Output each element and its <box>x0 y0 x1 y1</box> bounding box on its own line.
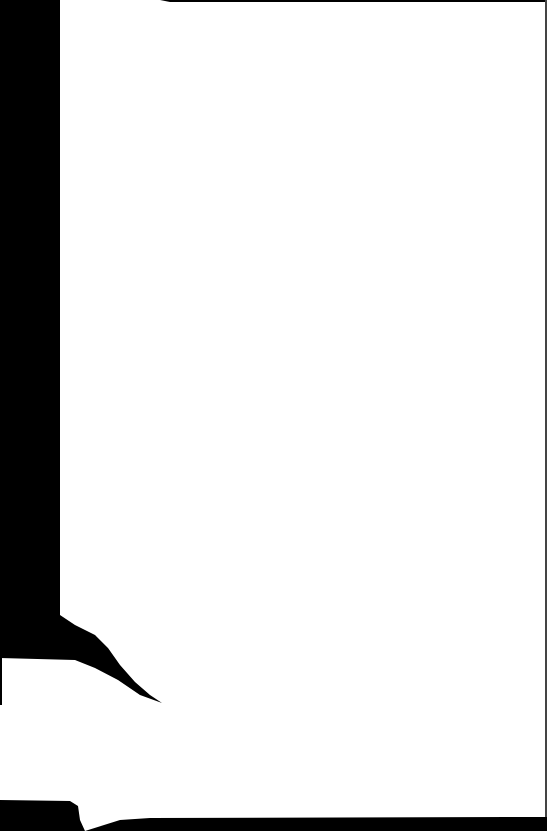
top-scan-edge <box>160 0 547 2</box>
bottom-scan-border <box>0 800 85 831</box>
scanned-page <box>0 0 547 831</box>
left-mid-border <box>0 658 2 705</box>
scan-border-artifacts <box>0 0 547 831</box>
left-scan-border <box>0 0 162 703</box>
bottom-scan-edge <box>85 817 547 831</box>
